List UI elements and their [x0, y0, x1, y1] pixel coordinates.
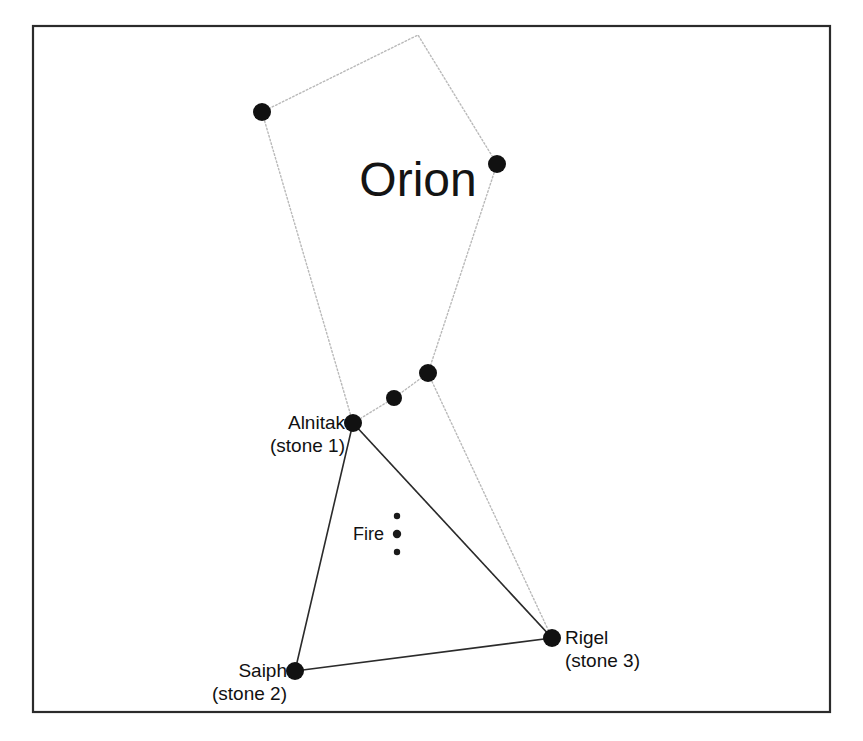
fire-dot-3: [394, 549, 400, 555]
saiph-label-name: Saiph: [238, 660, 287, 681]
star-dot-shoulder-right: [488, 155, 506, 173]
star-dot-saiph: [286, 662, 304, 680]
star-dot-alnitak: [344, 414, 362, 432]
saiph-label-stone: (stone 2): [212, 683, 287, 704]
diagram-canvas: Orion Fire Alnitak(stone 1)Saiph(stone 2…: [0, 0, 863, 741]
alnitak-label-name: Alnitak: [288, 412, 346, 433]
rigel-label-stone: (stone 3): [565, 650, 640, 671]
constellation-title: Orion: [359, 153, 476, 206]
orion-constellation-diagram: Orion Fire Alnitak(stone 1)Saiph(stone 2…: [0, 0, 863, 741]
fire-dot-2: [393, 530, 401, 538]
star-dot-shoulder-left: [253, 103, 271, 121]
star-dot-rigel: [543, 629, 561, 647]
fire-dot-1: [394, 513, 400, 519]
rigel-label-name: Rigel: [565, 627, 608, 648]
alnitak-label-stone: (stone 1): [270, 435, 345, 456]
star-dot-belt-upper: [419, 364, 437, 382]
fire-label: Fire: [353, 524, 384, 544]
star-dot-belt-middle: [386, 390, 402, 406]
